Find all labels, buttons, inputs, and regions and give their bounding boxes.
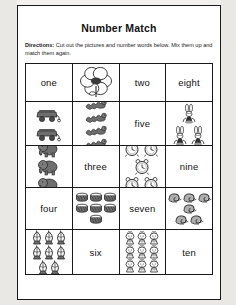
- lantern-icon: [43, 230, 55, 245]
- page-right-margin: [221, 0, 236, 305]
- cell-picture-chicks[interactable]: [120, 230, 167, 275]
- snail-icon: [182, 192, 197, 203]
- drum-icon: [89, 192, 103, 203]
- drum-icon: [75, 192, 89, 203]
- cell-picture-lanterns[interactable]: [26, 230, 73, 275]
- lantern-icon: [37, 260, 49, 275]
- caterpillar-icon: [84, 137, 108, 147]
- number-word: three: [84, 161, 107, 172]
- picture-cluster: [167, 102, 212, 145]
- caterpillar-icon: [84, 102, 108, 111]
- elephant-icon: [38, 146, 59, 158]
- clock-icon: [124, 176, 141, 189]
- clock-icon: [143, 176, 160, 189]
- elephant-icon: [38, 176, 59, 189]
- snail-icon: [197, 192, 212, 203]
- clock-icon: [134, 158, 151, 176]
- bunny-icon: [180, 102, 198, 124]
- number-word: five: [135, 118, 151, 129]
- page-left-margin: [0, 0, 17, 305]
- lantern-icon: [31, 245, 43, 260]
- cell-word-seven[interactable]: seven: [120, 188, 167, 230]
- picture-cluster: [27, 102, 71, 145]
- cell-picture-elephants[interactable]: [26, 146, 73, 188]
- grid-row: fourseven: [26, 188, 213, 230]
- number-word: seven: [129, 203, 155, 214]
- directions-label: Directions:: [25, 42, 54, 48]
- snail-icon: [174, 214, 189, 225]
- drum-icon: [89, 203, 103, 214]
- cell-word-two[interactable]: two: [120, 64, 167, 102]
- picture-cluster: [167, 188, 212, 229]
- worksheet-page: Number Match Directions: Cut out the pic…: [0, 0, 236, 305]
- number-word: four: [40, 203, 57, 214]
- cell-word-eight[interactable]: eight: [166, 64, 213, 102]
- picture-cluster: [73, 188, 118, 229]
- chick-icon: [148, 245, 160, 259]
- number-word: six: [90, 247, 102, 258]
- directions-text: Cut out the pictures and number words be…: [25, 42, 212, 56]
- number-word: one: [41, 77, 57, 88]
- bunny-icon: [171, 124, 189, 146]
- cell-word-four[interactable]: four: [26, 188, 73, 230]
- lantern-icon: [43, 245, 55, 260]
- picture-cluster: [26, 230, 71, 274]
- picture-cluster: [33, 146, 65, 187]
- drum-icon: [103, 203, 117, 214]
- cell-picture-flower[interactable]: [73, 64, 120, 102]
- grid-row: five: [26, 102, 213, 146]
- drum-icon: [89, 214, 103, 225]
- elephant-icon: [38, 158, 59, 176]
- flower-icon: [76, 66, 116, 99]
- picture-cluster: [120, 230, 165, 274]
- picture-cluster: [120, 146, 165, 187]
- clock-icon: [143, 146, 160, 158]
- cell-picture-drums[interactable]: [73, 188, 120, 230]
- chick-icon: [124, 231, 136, 245]
- drum-icon: [103, 192, 117, 203]
- chick-icon: [124, 245, 136, 259]
- chick-icon: [148, 231, 160, 245]
- picture-cluster: [80, 102, 112, 145]
- chick-icon: [148, 259, 160, 273]
- wagon-icon: [36, 106, 62, 123]
- picture-cluster: [74, 64, 118, 101]
- caterpillar-icon: [84, 111, 108, 124]
- cell-word-nine[interactable]: nine: [166, 146, 213, 188]
- cell-picture-wagons[interactable]: [26, 102, 73, 146]
- worksheet-sheet: Number Match Directions: Cut out the pic…: [17, 5, 221, 300]
- number-word: two: [135, 77, 150, 88]
- page-bottom-margin: [0, 300, 236, 305]
- drum-icon: [75, 203, 89, 214]
- lantern-icon: [55, 230, 67, 245]
- bunny-icon: [189, 124, 207, 146]
- lantern-icon: [55, 245, 67, 260]
- snail-icon: [189, 214, 204, 225]
- cell-picture-snails[interactable]: [166, 188, 213, 230]
- cell-word-five[interactable]: five: [120, 102, 167, 146]
- chick-icon: [136, 231, 148, 245]
- cell-word-three[interactable]: three: [73, 146, 120, 188]
- cell-word-six[interactable]: six: [73, 230, 120, 275]
- cell-picture-caterpillars[interactable]: [73, 102, 120, 146]
- wagon-icon: [36, 125, 62, 142]
- directions-block: Directions: Cut out the pictures and num…: [25, 41, 213, 57]
- cell-picture-bunnies[interactable]: [166, 102, 213, 146]
- grid-row: sixten: [26, 230, 213, 275]
- cell-picture-clocks[interactable]: [120, 146, 167, 188]
- snail-icon: [167, 192, 182, 203]
- number-word: nine: [180, 161, 199, 172]
- chick-icon: [136, 245, 148, 259]
- caterpillar-icon: [84, 124, 108, 137]
- number-word: eight: [178, 77, 200, 88]
- snail-icon: [182, 203, 197, 214]
- cell-word-one[interactable]: one: [26, 64, 73, 102]
- cell-word-ten[interactable]: ten: [166, 230, 213, 275]
- grid-row: threenine: [26, 146, 213, 188]
- chick-icon: [124, 259, 136, 273]
- clock-icon: [124, 146, 141, 158]
- page-title: Number Match: [18, 22, 220, 34]
- number-word: ten: [182, 247, 196, 258]
- number-match-grid: onetwoeightfivethreeninefoursevensixten: [25, 63, 213, 275]
- chick-icon: [136, 259, 148, 273]
